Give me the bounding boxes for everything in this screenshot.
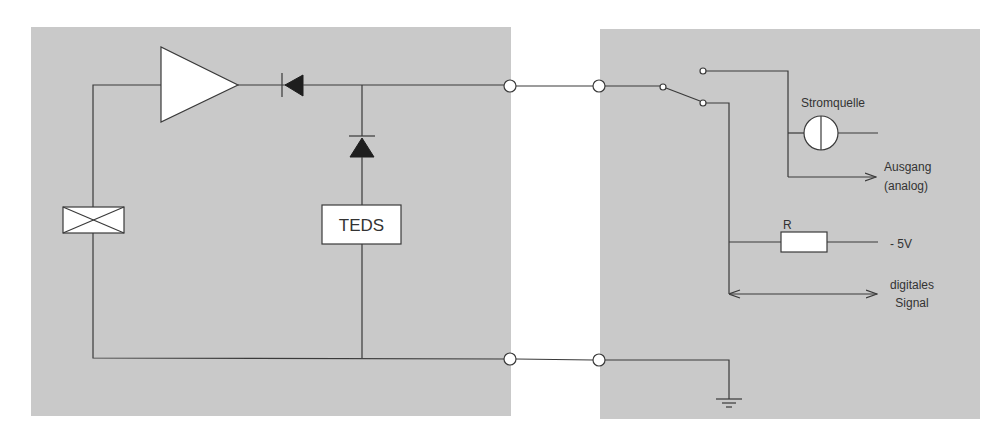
device-ground-terminal-icon [593,354,605,366]
teds-chip: TEDS [322,205,401,244]
teds-circuit-diagram: TEDS [0,0,1005,439]
teds-label: TEDS [339,216,384,235]
device-signal-terminal-icon [593,80,605,92]
voltage-label: - 5V [890,237,912,251]
sensor-signal-terminal-icon [504,80,516,92]
digital-signal-label-line2: Signal [895,296,928,310]
analog-output-label-line1: Ausgang [884,160,931,174]
device-panel: Stromquelle Ausgang (analog) R - 5V digi… [600,29,980,419]
transducer-element-icon [63,207,124,233]
cable [516,86,593,360]
current-source-icon [804,116,838,150]
current-source-label: Stromquelle [801,96,865,110]
digital-signal-label-line1: digitales [890,278,934,292]
sensor-ground-terminal-icon [504,353,516,365]
sensor-panel: TEDS [31,27,511,416]
cable-ground-wire [516,359,593,360]
analog-output-label-line2: (analog) [884,179,928,193]
resistor-label: R [783,218,792,232]
resistor-icon [781,232,827,252]
connector-terminals [504,80,605,366]
